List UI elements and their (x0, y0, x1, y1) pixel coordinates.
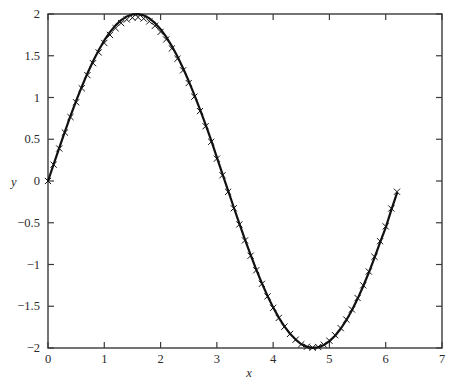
x-tick-label: 7 (439, 352, 445, 366)
x-tick-label: 5 (326, 352, 332, 366)
x-axis-label: x (245, 366, 252, 380)
y-tick-label: 0.5 (24, 132, 40, 146)
x-tick-label: 6 (383, 352, 389, 366)
x-tick-label: 4 (270, 352, 277, 366)
y-tick-label: 1.5 (24, 49, 40, 63)
y-tick-label: 0 (34, 174, 40, 188)
y-axis-label: y (9, 175, 17, 189)
y-tick-label: −0.5 (17, 216, 40, 230)
x-tick-label: 3 (214, 352, 220, 366)
y-tick-label: −1 (27, 258, 40, 272)
x-tick-label: 2 (157, 352, 163, 366)
y-tick-label: −1.5 (17, 299, 40, 313)
chart-figure: 01234567 −2−1.5−1−0.500.511.52 x y (0, 0, 466, 384)
x-tick-label: 0 (45, 352, 51, 366)
y-tick-label: 2 (34, 7, 40, 21)
sine-curve-plot: 01234567 −2−1.5−1−0.500.511.52 x y (0, 0, 466, 384)
x-tick-label: 1 (101, 352, 107, 366)
y-tick-label: −2 (27, 341, 40, 355)
y-tick-label: 1 (34, 91, 40, 105)
